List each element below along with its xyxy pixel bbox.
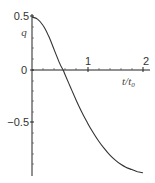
x-axis-label: t/t0 bbox=[122, 75, 135, 89]
y-axis-label: q bbox=[21, 26, 27, 38]
chart: 0.5 0 −0.5 1 2 q t/t0 bbox=[0, 0, 155, 183]
y-tick-label-0.5: 0.5 bbox=[14, 10, 29, 22]
y-tick-label-neg0.5: −0.5 bbox=[7, 116, 29, 128]
x-tick-label-1: 1 bbox=[85, 55, 91, 67]
x-tick-label-2: 2 bbox=[143, 55, 149, 67]
data-curve bbox=[32, 17, 143, 173]
y-tick-label-0: 0 bbox=[21, 64, 27, 76]
